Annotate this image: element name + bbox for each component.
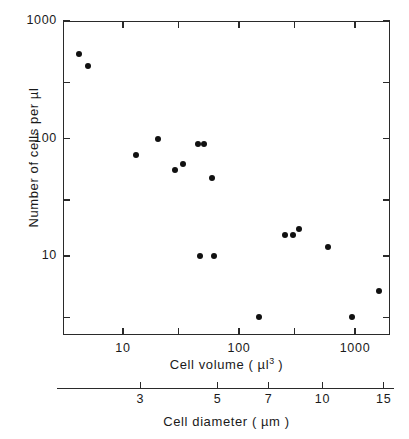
x-axis-tick-top [122,21,123,28]
y-axis-minor-tick-right [383,317,390,318]
diameter-axis-tick [217,382,218,388]
y-axis-minor-tick [63,199,70,200]
y-axis-tick-right [383,255,390,256]
y-axis-tick [63,255,70,256]
diameter-axis-tick [322,382,323,388]
y-axis-tick-right [383,138,390,139]
y-axis-minor-tick [63,317,70,318]
x-axis-title-text: Cell volume ( µl [170,357,269,372]
x-axis-tick [122,328,123,335]
scatter-chart-figure: Number of cells per µl Cell volume ( µl3… [0,0,409,439]
diameter-axis-tick-label: 3 [110,392,170,406]
y-axis-tick [63,138,70,139]
diameter-axis-tick [140,382,141,388]
x-axis-tick-top [238,21,239,28]
y-axis-tick-right [383,20,390,21]
diameter-axis-tick-label: 10 [292,392,352,406]
x-axis-minor-tick-top [178,21,179,28]
x-axis-tick [238,328,239,335]
x-axis-title: Cell volume ( µl3 ) [63,356,390,372]
x-axis-tick-top [354,21,355,28]
diameter-axis-line: 3571015 [57,388,394,389]
y-axis-minor-tick-right [383,82,390,83]
x-axis-minor-tick [294,328,295,335]
y-axis-title: Number of cells per µl [26,63,41,253]
diameter-axis-tick [383,382,384,388]
plot-area [63,21,390,335]
x-axis-tick-label: 100 [209,341,269,355]
y-axis-tick-label: 10 [1,248,57,262]
x-axis-tick-label: 1000 [325,341,385,355]
y-axis-tick-label: 1000 [1,13,57,27]
x-axis-minor-tick-top [294,21,295,28]
x-axis-tick-label: 10 [93,341,153,355]
y-axis-tick-label: 100 [1,131,57,145]
diameter-axis-tick-label: 15 [354,392,409,406]
y-axis-tick [63,20,70,21]
diameter-axis-tick [268,382,269,388]
y-axis-minor-tick-right [383,199,390,200]
diameter-axis-tick-label: 7 [238,392,298,406]
diameter-axis-title: Cell diameter ( µm ) [63,414,390,429]
x-axis-title-tail: ) [274,357,283,372]
x-axis-minor-tick [178,328,179,335]
x-axis-tick [354,328,355,335]
y-axis-minor-tick [63,82,70,83]
